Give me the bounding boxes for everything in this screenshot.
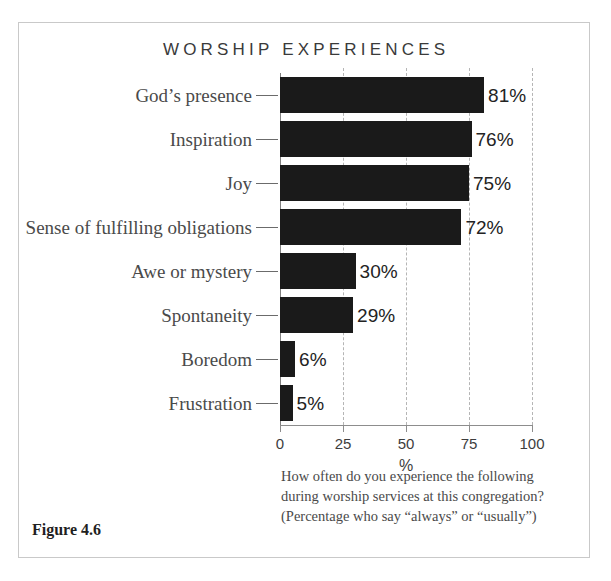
bar-value-label: 6% xyxy=(299,350,326,369)
category-leader-line xyxy=(256,359,278,360)
bar xyxy=(280,121,472,157)
category-label: Inspiration xyxy=(170,130,252,149)
category-label: God’s presence xyxy=(135,86,252,105)
x-tick-label-50: 50 xyxy=(398,435,415,452)
bar xyxy=(280,253,356,289)
bar xyxy=(280,385,293,421)
category-label: Boredom xyxy=(181,350,252,369)
bar xyxy=(280,341,295,377)
category-leader-lines xyxy=(256,73,280,425)
category-leader-line xyxy=(256,95,278,96)
x-tick-0 xyxy=(280,425,281,432)
figure-page: WORSHIP EXPERIENCES God’s presenceInspir… xyxy=(0,0,611,581)
x-tick-label-25: 25 xyxy=(335,435,352,452)
bar xyxy=(280,77,484,113)
bar-value-label: 30% xyxy=(360,262,398,281)
x-tick-75 xyxy=(469,425,470,432)
bar xyxy=(280,209,461,245)
category-label: Spontaneity xyxy=(161,306,252,325)
bar-value-label: 75% xyxy=(473,174,511,193)
bar-value-label: 72% xyxy=(465,218,503,237)
category-axis-labels: God’s presenceInspirationJoySense of ful… xyxy=(20,73,252,425)
category-label: Joy xyxy=(226,174,252,193)
category-leader-line xyxy=(256,139,278,140)
x-tick-label-0: 0 xyxy=(276,435,284,452)
bar xyxy=(280,165,469,201)
chart-title: WORSHIP EXPERIENCES xyxy=(19,40,589,60)
category-label: Awe or mystery xyxy=(131,262,252,281)
category-leader-line xyxy=(256,403,278,404)
bar xyxy=(280,297,353,333)
category-leader-line xyxy=(256,315,278,316)
gridline-100 xyxy=(532,68,533,425)
category-label: Frustration xyxy=(169,394,252,413)
figure-number: Figure 4.6 xyxy=(32,521,101,539)
bar-value-label: 76% xyxy=(476,130,514,149)
plot-area: 81%76%75%72%30%29%6%5% 0255075100 % xyxy=(280,73,532,425)
category-leader-line xyxy=(256,227,278,228)
bar-value-label: 29% xyxy=(357,306,395,325)
category-label: Sense of fulfilling obligations xyxy=(26,218,252,237)
bar-value-label: 5% xyxy=(297,394,324,413)
bar-value-label: 81% xyxy=(488,86,526,105)
x-tick-25 xyxy=(343,425,344,432)
x-tick-label-100: 100 xyxy=(519,435,544,452)
x-tick-label-75: 75 xyxy=(461,435,478,452)
x-tick-50 xyxy=(406,425,407,432)
x-tick-100 xyxy=(532,425,533,432)
figure-caption: How often do you experience the followin… xyxy=(281,466,564,526)
category-leader-line xyxy=(256,271,278,272)
category-leader-line xyxy=(256,183,278,184)
